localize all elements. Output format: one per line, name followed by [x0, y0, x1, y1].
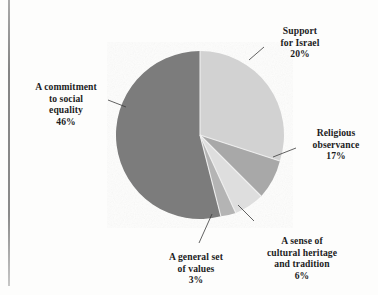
pie-label-heritage-value: 6%	[246, 270, 358, 281]
pie-label-general-set-of-values: A general set of values 3%	[150, 240, 242, 295]
pie-label-support-for-israel: Support for Israel 20%	[252, 14, 348, 71]
pie-label-cultural-heritage: A sense of cultural heritage and traditi…	[246, 224, 358, 292]
pie-label-commitment-value: 46%	[14, 116, 118, 127]
pie-label-support-value: 20%	[252, 48, 348, 59]
pie-label-support-text: Support for Israel	[281, 25, 320, 47]
pie-label-heritage-text: A sense of cultural heritage and traditi…	[267, 235, 337, 269]
pie-label-religious-observance: Religious observance 17%	[296, 116, 376, 173]
pie-label-values-text: A general set of values	[169, 251, 223, 273]
pie-label-commitment-to-social-equality: A commitment to social equality 46%	[14, 70, 118, 138]
pie-label-commitment-text: A commitment to social equality	[35, 81, 97, 115]
pie-label-values-value: 3%	[150, 274, 242, 285]
pie-chart: Support for Israel 20% Religious observa…	[0, 0, 378, 295]
pie-label-religious-value: 17%	[296, 150, 376, 161]
scanned-page: Support for Israel 20% Religious observa…	[0, 0, 378, 295]
pie-label-religious-text: Religious observance	[313, 127, 360, 149]
